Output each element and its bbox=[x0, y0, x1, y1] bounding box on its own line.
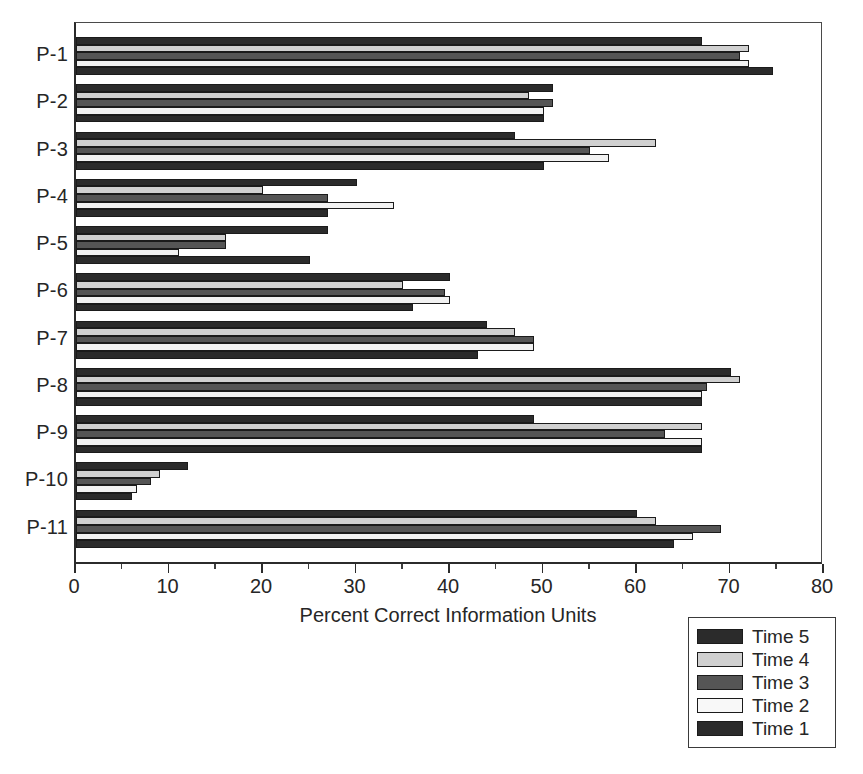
x-tick-major bbox=[542, 564, 544, 573]
bar bbox=[76, 241, 226, 249]
legend-swatch bbox=[697, 652, 743, 667]
bar bbox=[76, 446, 702, 454]
x-tick-major bbox=[74, 564, 76, 573]
y-axis-category-labels: P-1P-2P-3P-4P-5P-6P-7P-8P-9P-10P-11 bbox=[0, 22, 68, 564]
x-tick-label: 20 bbox=[250, 575, 272, 597]
x-tick-minor bbox=[214, 564, 216, 569]
bar bbox=[76, 52, 740, 60]
bar bbox=[76, 438, 702, 446]
y-axis-label-p-10: P-10 bbox=[2, 469, 68, 489]
legend-label: Time 2 bbox=[752, 696, 809, 715]
bar bbox=[76, 99, 553, 107]
y-axis-label-p-2: P-2 bbox=[2, 91, 68, 111]
legend-swatch bbox=[697, 629, 743, 644]
bar bbox=[76, 540, 674, 548]
legend-item: Time 5 bbox=[697, 625, 829, 648]
bar-group bbox=[76, 321, 821, 359]
bar bbox=[76, 186, 263, 194]
bar bbox=[76, 147, 590, 155]
bar bbox=[76, 368, 731, 376]
bar bbox=[76, 179, 357, 187]
x-tick-major bbox=[448, 564, 450, 573]
legend-item: Time 1 bbox=[697, 717, 829, 740]
bar-group bbox=[76, 37, 821, 75]
bar bbox=[76, 37, 702, 45]
x-tick-minor bbox=[682, 564, 684, 569]
bar bbox=[76, 115, 544, 123]
x-tick-major bbox=[355, 564, 357, 573]
plot-area bbox=[74, 22, 822, 564]
bar bbox=[76, 351, 478, 359]
x-tick-major bbox=[168, 564, 170, 573]
y-axis-label-p-4: P-4 bbox=[2, 186, 68, 206]
bar-group bbox=[76, 179, 821, 217]
bar bbox=[76, 510, 637, 518]
x-tick-minor bbox=[495, 564, 497, 569]
x-tick-label: 70 bbox=[717, 575, 739, 597]
bar bbox=[76, 462, 188, 470]
x-tick-major bbox=[729, 564, 731, 573]
bar bbox=[76, 273, 450, 281]
legend-item: Time 2 bbox=[697, 694, 829, 717]
bar bbox=[76, 478, 151, 486]
bar bbox=[76, 194, 328, 202]
bar bbox=[76, 162, 544, 170]
bar bbox=[76, 154, 609, 162]
x-tick-minor bbox=[401, 564, 403, 569]
bar bbox=[76, 60, 749, 68]
bar bbox=[76, 485, 137, 493]
bar bbox=[76, 45, 749, 53]
bar bbox=[76, 296, 450, 304]
y-axis-label-p-6: P-6 bbox=[2, 280, 68, 300]
bar bbox=[76, 256, 310, 264]
x-tick-label: 50 bbox=[530, 575, 552, 597]
y-axis-label-p-3: P-3 bbox=[2, 139, 68, 159]
y-axis-label-p-8: P-8 bbox=[2, 375, 68, 395]
x-tick-minor bbox=[775, 564, 777, 569]
bar bbox=[76, 234, 226, 242]
chart-legend: Time 5Time 4Time 3Time 2Time 1 bbox=[688, 617, 836, 748]
bar bbox=[76, 209, 328, 217]
legend-label: Time 4 bbox=[752, 650, 809, 669]
bar bbox=[76, 493, 132, 501]
bar bbox=[76, 430, 665, 438]
bar-group bbox=[76, 462, 821, 500]
legend-label: Time 3 bbox=[752, 673, 809, 692]
bar bbox=[76, 132, 515, 140]
x-tick-label: 30 bbox=[343, 575, 365, 597]
bar bbox=[76, 525, 721, 533]
y-axis-label-p-11: P-11 bbox=[2, 517, 68, 537]
bar bbox=[76, 202, 394, 210]
bar bbox=[76, 343, 534, 351]
bar bbox=[76, 423, 702, 431]
bar-group bbox=[76, 415, 821, 453]
x-tick-label: 60 bbox=[624, 575, 646, 597]
bar bbox=[76, 517, 656, 525]
bar bbox=[76, 391, 702, 399]
bar bbox=[76, 92, 529, 100]
bar-group bbox=[76, 273, 821, 311]
bar bbox=[76, 328, 515, 336]
bar bbox=[76, 304, 413, 312]
legend-swatch bbox=[697, 698, 743, 713]
legend-item: Time 4 bbox=[697, 648, 829, 671]
bar-group bbox=[76, 226, 821, 264]
bar bbox=[76, 398, 702, 406]
bar bbox=[76, 84, 553, 92]
x-tick-label: 10 bbox=[156, 575, 178, 597]
legend-label: Time 5 bbox=[752, 627, 809, 646]
bar bbox=[76, 289, 445, 297]
bar bbox=[76, 470, 160, 478]
y-axis-label-p-5: P-5 bbox=[2, 233, 68, 253]
bar bbox=[76, 336, 534, 344]
x-tick-major bbox=[822, 564, 824, 573]
x-tick-label: 40 bbox=[437, 575, 459, 597]
y-axis-label-p-7: P-7 bbox=[2, 328, 68, 348]
bar bbox=[76, 226, 328, 234]
bar bbox=[76, 139, 656, 147]
x-axis-ticks: 01020304050607080 bbox=[0, 564, 863, 604]
x-tick-label: 80 bbox=[811, 575, 833, 597]
x-tick-label: 0 bbox=[68, 575, 79, 597]
bar bbox=[76, 415, 534, 423]
x-tick-minor bbox=[121, 564, 123, 569]
